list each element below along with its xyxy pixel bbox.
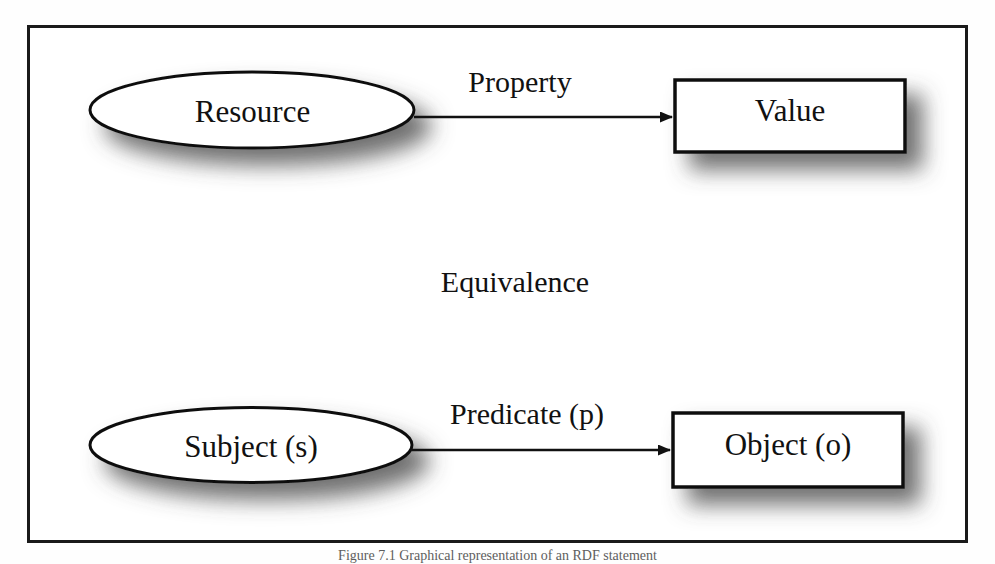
figure-caption: Figure 7.1 Graphical representation of a… <box>0 548 995 564</box>
edge-label-predicate: Predicate (p) <box>412 397 642 431</box>
node-label-value: Value <box>675 94 905 128</box>
edge-label-property: Property <box>420 65 620 99</box>
node-label-resource: Resource <box>90 95 415 129</box>
node-label-subject: Subject (s) <box>90 430 412 464</box>
node-label-object: Object (o) <box>673 428 903 462</box>
annotation-label-equivalence: Equivalence <box>395 265 635 299</box>
figure-page: Resource Value Subject (s) Object (o) Pr… <box>0 0 995 564</box>
